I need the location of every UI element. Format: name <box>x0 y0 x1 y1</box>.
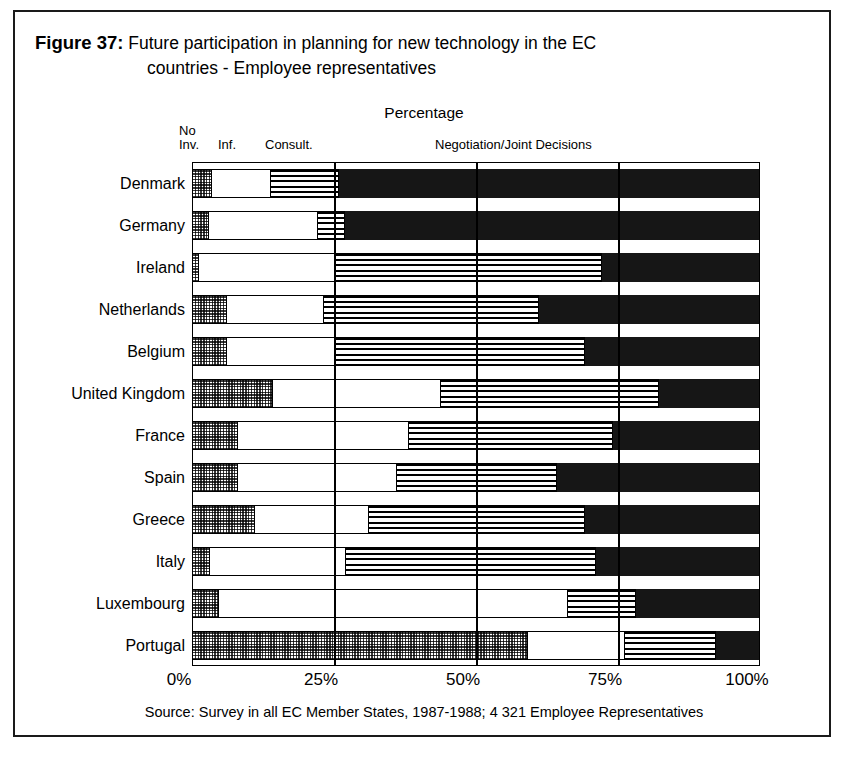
bar-segment-no-inv <box>192 589 218 618</box>
bar-segment-consult <box>624 631 715 660</box>
bar-segment-no-inv <box>192 337 226 366</box>
legend-item-no-involvement: No Inv. <box>179 124 199 152</box>
title-line-1: Figure 37: Future participation in plann… <box>35 30 815 56</box>
bar-segment-negotiation-joint-decisions <box>601 253 760 282</box>
country-label-ireland: Ireland <box>15 253 185 282</box>
bar-segment-consult <box>323 295 539 324</box>
bar-segment-inf <box>272 379 441 408</box>
segment-divider <box>624 631 625 660</box>
gridline-50 <box>476 162 478 666</box>
bar-segment-consult <box>334 337 584 366</box>
figure-number: Figure 37: <box>35 32 123 53</box>
segment-divider <box>254 505 255 534</box>
bar-segment-no-inv <box>192 169 211 198</box>
bar-segment-negotiation-joint-decisions <box>715 631 760 660</box>
bar-segment-inf <box>198 253 334 282</box>
bar-segment-inf <box>237 463 396 492</box>
segment-divider <box>584 337 585 366</box>
segment-divider <box>595 547 596 576</box>
segment-divider <box>323 295 324 324</box>
bar-segment-negotiation-joint-decisions <box>584 337 760 366</box>
bar-segment-no-inv <box>192 421 237 450</box>
country-label-united-kingdom: United Kingdom <box>15 379 185 408</box>
segment-divider <box>658 379 659 408</box>
country-label-denmark: Denmark <box>15 169 185 198</box>
bar-segment-no-inv <box>192 463 237 492</box>
country-label-belgium: Belgium <box>15 337 185 366</box>
segment-divider <box>226 337 227 366</box>
x-axis-tick-labels: 0%25%50%75%100% <box>15 670 833 694</box>
chart-legend: No Inv. Inf. Consult. Negotiation/Joint … <box>15 124 833 156</box>
legend-item-negotiation: Negotiation/Joint Decisions <box>435 138 592 152</box>
bar-segment-negotiation-joint-decisions <box>595 547 760 576</box>
bar-segment-no-inv <box>192 379 272 408</box>
x-tick-25pct: 25% <box>286 670 356 690</box>
bar-segment-consult <box>567 589 635 618</box>
bar-segment-consult <box>270 169 338 198</box>
bar-segment-consult <box>440 379 658 408</box>
segment-divider <box>237 421 238 450</box>
bar-segment-negotiation-joint-decisions <box>584 505 760 534</box>
bar-segment-inf <box>226 295 323 324</box>
bar-segment-no-inv <box>192 211 208 240</box>
bar-segment-consult <box>345 547 595 576</box>
bar-segment-negotiation-joint-decisions <box>338 169 760 198</box>
segment-divider <box>408 421 409 450</box>
bar-segment-inf <box>226 337 334 366</box>
bar-segment-inf <box>237 421 407 450</box>
segment-divider <box>211 169 212 198</box>
bar-segment-inf <box>254 505 368 534</box>
country-label-italy: Italy <box>15 547 185 576</box>
segment-divider <box>715 631 716 660</box>
segment-divider <box>345 547 346 576</box>
bar-segment-inf <box>208 211 317 240</box>
source-note: Source: Survey in all EC Member States, … <box>15 704 833 720</box>
segment-divider <box>338 169 339 198</box>
bar-segment-no-inv <box>192 295 226 324</box>
bar-segment-inf <box>218 589 567 618</box>
segment-divider <box>538 295 539 324</box>
segment-divider <box>635 589 636 618</box>
percentage-axis-header: Percentage <box>15 104 833 122</box>
bar-segment-negotiation-joint-decisions <box>556 463 760 492</box>
segment-divider <box>344 211 345 240</box>
bar-segment-inf <box>209 547 345 576</box>
segment-divider <box>317 211 318 240</box>
x-tick-50pct: 50% <box>428 670 498 690</box>
segment-divider <box>270 169 271 198</box>
segment-divider <box>198 253 199 282</box>
bar-segment-negotiation-joint-decisions <box>538 295 760 324</box>
bar-segment-negotiation-joint-decisions <box>658 379 760 408</box>
legend-item-consultation: Consult. <box>265 138 313 152</box>
segment-divider <box>208 211 209 240</box>
title-text-2: countries - Employee representatives <box>147 56 815 81</box>
bar-segment-consult <box>408 421 612 450</box>
x-tick-75pct: 75% <box>570 670 640 690</box>
bar-segment-negotiation-joint-decisions <box>344 211 760 240</box>
segment-divider <box>601 253 602 282</box>
segment-divider <box>368 505 369 534</box>
segment-divider <box>527 631 528 660</box>
gridline-25 <box>334 162 336 666</box>
bar-segment-inf <box>211 169 270 198</box>
country-label-france: France <box>15 421 185 450</box>
country-label-luxembourg: Luxembourg <box>15 589 185 618</box>
country-label-portugal: Portugal <box>15 631 185 660</box>
segment-divider <box>440 379 441 408</box>
country-axis-labels: DenmarkGermanyIrelandNetherlandsBelgiumU… <box>15 162 185 666</box>
segment-divider <box>584 505 585 534</box>
country-label-spain: Spain <box>15 463 185 492</box>
bar-segment-inf <box>527 631 624 660</box>
segment-divider <box>237 463 238 492</box>
figure-frame: Figure 37: Future participation in plann… <box>13 10 831 737</box>
segment-divider <box>272 379 273 408</box>
x-tick-100pct: 100% <box>712 670 782 690</box>
segment-divider <box>209 547 210 576</box>
bar-segment-no-inv <box>192 547 209 576</box>
bar-segment-negotiation-joint-decisions <box>635 589 760 618</box>
bar-segment-consult <box>317 211 344 240</box>
segment-divider <box>612 421 613 450</box>
country-label-greece: Greece <box>15 505 185 534</box>
segment-divider <box>396 463 397 492</box>
x-tick-0pct: 0% <box>144 670 214 690</box>
